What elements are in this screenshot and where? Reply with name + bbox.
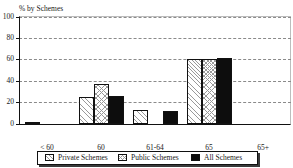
ytick-mark-0: [16, 124, 20, 125]
ytick-label-20: 20: [7, 98, 15, 106]
xtick-label-65plus: 65+: [257, 143, 269, 152]
chart-legend: Private Schemes Public Schemes All Schem…: [37, 151, 258, 165]
bar-all-60[interactable]: [109, 96, 124, 123]
ytick-label-100: 100: [3, 13, 14, 21]
bar-group-65: [182, 16, 236, 124]
plot-area: 100 80 60 40 20 0 < 60 60 61-64 6: [19, 16, 291, 125]
legend-item-public-schemes[interactable]: Public Schemes: [111, 153, 184, 162]
bar-private-61-64[interactable]: [133, 110, 148, 123]
bar-group-lt60: [20, 16, 74, 124]
bar-group-61-64: [128, 16, 182, 124]
legend-label-private: Private Schemes: [58, 153, 108, 162]
ytick-label-60: 60: [7, 55, 15, 63]
legend-swatch-all-icon: [191, 154, 200, 161]
bar-private-60[interactable]: [79, 97, 94, 124]
legend-item-all-schemes[interactable]: All Schemes: [184, 153, 257, 162]
legend-label-all: All Schemes: [204, 153, 242, 162]
bar-group-60: [74, 16, 128, 124]
ytick-label-80: 80: [7, 34, 15, 42]
ytick-label-0: 0: [10, 120, 14, 128]
bar-public-65[interactable]: [202, 59, 217, 124]
legend-label-public: Public Schemes: [131, 153, 179, 162]
bar-private-65[interactable]: [187, 59, 202, 124]
legend-swatch-public-icon: [118, 154, 127, 161]
y-axis-caption: % by Schemes: [19, 4, 63, 13]
legend-swatch-private-icon: [45, 154, 54, 161]
legend-item-private-schemes[interactable]: Private Schemes: [38, 153, 111, 162]
ytick-label-40: 40: [7, 77, 15, 85]
bar-public-60[interactable]: [94, 84, 109, 124]
bar-private-lt60[interactable]: [25, 122, 40, 124]
bar-all-61-64[interactable]: [163, 111, 178, 123]
bar-all-65[interactable]: [217, 58, 232, 123]
bar-group-65plus: [236, 16, 290, 124]
